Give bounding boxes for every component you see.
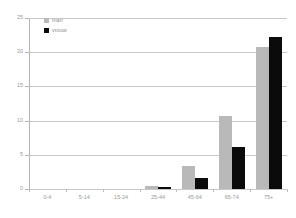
bar-group [66,18,103,189]
x-axis-tick [287,189,288,192]
x-axis-tick [176,189,177,192]
legend-item-vrouw: vrouw [44,27,67,34]
y-axis-tick-label: 10 [1,118,23,124]
bar-group [176,18,213,189]
y-axis-tick-label: 25 [1,15,23,21]
bar-man-65-74 [219,116,232,189]
gridline [29,189,287,190]
bar-man-75+ [256,47,269,189]
x-axis-tick-label: 5-14 [66,195,103,201]
bar-group [250,18,287,189]
x-axis-tick [213,189,214,192]
legend-label: vrouw [52,28,67,34]
x-axis-tick-label: 65-74 [213,195,250,201]
bar-vrouw-65-74 [232,147,245,189]
x-axis-tick [103,189,104,192]
x-axis-tick-label: 45-64 [176,195,213,201]
x-axis-tick [66,189,67,192]
x-axis-tick [140,189,141,192]
legend-swatch-icon [44,28,49,33]
x-axis-tick [250,189,251,192]
x-axis-tick-label: 75+ [250,195,287,201]
bar-group [103,18,140,189]
bar-man-45-64 [182,166,195,189]
bar-vrouw-75+ [269,37,282,189]
bar-group [140,18,177,189]
legend-item-man: man [44,17,67,24]
legend-swatch-icon [44,18,49,23]
bar-chart: 0510152025 0-45-1415-2425-4445-6465-7475… [0,0,296,218]
x-axis-tick-label: 0-4 [29,195,66,201]
bar-group [29,18,66,189]
bar-group [213,18,250,189]
bar-man-25-44 [145,186,158,189]
bar-vrouw-25-44 [158,187,171,189]
x-axis-tick [29,189,30,192]
y-axis-tick-label: 0 [1,186,23,192]
plot-area [29,18,287,189]
y-axis-tick-label: 5 [1,152,23,158]
chart-legend: manvrouw [44,17,67,34]
x-axis-tick-label: 25-44 [140,195,177,201]
y-axis-tick-label: 15 [1,83,23,89]
y-axis-tick-label: 20 [1,49,23,55]
bar-vrouw-45-64 [195,178,208,189]
legend-label: man [52,18,63,24]
x-axis-tick-label: 15-24 [103,195,140,201]
